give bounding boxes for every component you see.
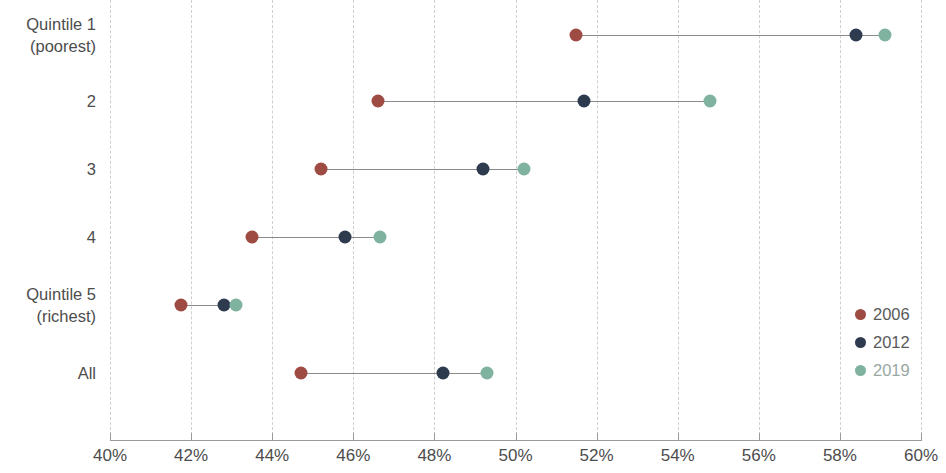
y-axis-label-line: 4 <box>0 226 96 248</box>
data-point-2012[interactable] <box>850 29 863 42</box>
gridline-46% <box>353 0 354 440</box>
legend-swatch-icon <box>855 337 866 348</box>
x-axis-tick <box>597 433 598 441</box>
x-axis-tick-label: 52% <box>580 446 614 466</box>
gridline-44% <box>272 0 273 440</box>
legend-item-2006[interactable]: 2006 <box>855 300 935 328</box>
legend-label: 2006 <box>873 305 910 324</box>
data-point-2019[interactable] <box>878 29 891 42</box>
x-axis-tick-label: 40% <box>93 446 127 466</box>
y-axis-label: All <box>0 373 96 395</box>
data-point-2006[interactable] <box>314 163 327 176</box>
y-axis-label: Quintile 1(poorest) <box>0 35 96 80</box>
data-point-2019[interactable] <box>481 367 494 380</box>
y-axis-label-line: 3 <box>0 158 96 180</box>
data-point-2019[interactable] <box>373 231 386 244</box>
data-point-2012[interactable] <box>578 95 591 108</box>
gridline-56% <box>759 0 760 440</box>
data-point-2006[interactable] <box>371 95 384 108</box>
y-axis-label-line: (poorest) <box>0 35 96 57</box>
x-axis-tick <box>516 433 517 441</box>
y-axis-label: 3 <box>0 169 96 191</box>
x-axis-tick <box>434 433 435 441</box>
y-axis-label-line: Quintile 5 <box>0 283 96 305</box>
x-axis-tick <box>191 433 192 441</box>
gridline-52% <box>597 0 598 440</box>
legend-item-2012[interactable]: 2012 <box>855 328 935 356</box>
legend-label: 2012 <box>873 333 910 352</box>
data-point-2019[interactable] <box>229 299 242 312</box>
row-connector <box>378 101 711 102</box>
data-point-2006[interactable] <box>245 231 258 244</box>
gridline-42% <box>191 0 192 440</box>
x-axis-tick-label: 44% <box>255 446 289 466</box>
data-point-2012[interactable] <box>339 231 352 244</box>
data-point-2012[interactable] <box>217 299 230 312</box>
data-point-2019[interactable] <box>517 163 530 176</box>
x-axis-tick <box>110 433 111 441</box>
x-axis-tick-label: 50% <box>498 446 532 466</box>
x-axis-tick-label: 54% <box>661 446 695 466</box>
legend-item-2019[interactable]: 2019 <box>855 356 935 384</box>
gridline-54% <box>678 0 679 440</box>
x-axis-tick-label: 42% <box>174 446 208 466</box>
data-point-2012[interactable] <box>477 163 490 176</box>
y-axis-label: 2 <box>0 101 96 123</box>
row-connector <box>321 169 524 170</box>
row-connector <box>301 373 488 374</box>
x-axis-tick <box>759 433 760 441</box>
x-axis-tick-label: 60% <box>904 446 938 466</box>
data-point-2006[interactable] <box>294 367 307 380</box>
y-axis-label-line: 2 <box>0 90 96 112</box>
data-point-2019[interactable] <box>704 95 717 108</box>
x-axis-tick <box>678 433 679 441</box>
x-axis-tick <box>921 433 922 441</box>
gridline-50% <box>516 0 517 440</box>
y-axis-label-line: (richest) <box>0 305 96 327</box>
gridline-40% <box>110 0 111 440</box>
y-axis-label-line: All <box>0 362 96 384</box>
x-axis-tick <box>272 433 273 441</box>
x-axis-tick <box>353 433 354 441</box>
x-axis-tick-label: 48% <box>417 446 451 466</box>
legend-label: 2019 <box>873 361 910 380</box>
y-axis-label: 4 <box>0 237 96 259</box>
y-axis-label: Quintile 5(richest) <box>0 305 96 350</box>
gridline-58% <box>840 0 841 440</box>
y-axis-label-line: Quintile 1 <box>0 13 96 35</box>
row-connector <box>252 237 380 238</box>
legend: 200620122019 <box>855 300 935 384</box>
legend-swatch-icon <box>855 365 866 376</box>
legend-swatch-icon <box>855 309 866 320</box>
x-axis-tick <box>840 433 841 441</box>
plot-area <box>110 0 921 440</box>
data-point-2012[interactable] <box>436 367 449 380</box>
data-point-2006[interactable] <box>570 29 583 42</box>
dumbbell-chart: Quintile 1(poorest)234Quintile 5(richest… <box>0 0 946 473</box>
x-axis-tick-label: 56% <box>742 446 776 466</box>
row-connector <box>576 35 884 36</box>
x-axis-tick-label: 46% <box>336 446 370 466</box>
x-axis-tick-label: 58% <box>823 446 857 466</box>
data-point-2006[interactable] <box>174 299 187 312</box>
